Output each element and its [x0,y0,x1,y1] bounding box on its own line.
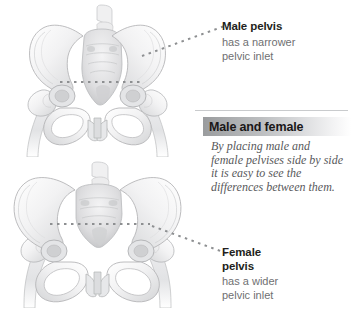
female-callout-title-line-2: pelvis [222,260,354,274]
female-callout-body-line-2: pelvic inlet [222,288,354,302]
section-heading: Male and female [209,119,303,135]
pubic-symphysis [94,272,101,294]
sacrum [82,5,122,105]
male-callout-body: has a narrower pelvic inlet [222,35,354,63]
sacrum [76,162,122,248]
male-callout-title: Male pelvis [222,20,354,34]
annotation-text-column: Male pelvis has a narrower pelvic inlet … [195,0,354,310]
male-pelvis-drawing [0,2,195,157]
female-pelvis-drawing [0,160,195,308]
caption-line-1: By placing male and [211,140,353,154]
male-pelvis-callout: Male pelvis has a narrower pelvic inlet [222,20,354,63]
section-caption: By placing male and female pelvises side… [211,140,353,194]
male-pelvis-illustration [0,2,195,157]
female-callout-title-line-1: Female [222,246,354,260]
pelvis-comparison-figure: Male pelvis has a narrower pelvic inlet … [0,0,354,310]
female-callout-body: has a wider pelvic inlet [222,274,354,302]
caption-line-4: differences between them. [211,181,353,195]
male-callout-body-line-1: has a narrower [222,35,354,49]
female-callout-title: Female pelvis [222,246,354,273]
caption-line-3: it is easy to see the [211,167,353,181]
pubic-symphysis [94,118,101,138]
caption-line-2: female pelvises side by side [211,154,353,168]
female-pelvis-callout: Female pelvis has a wider pelvic inlet [222,246,354,302]
female-pelvis-illustration [0,160,195,308]
section-divider-rule [195,110,348,111]
female-callout-body-line-1: has a wider [222,274,354,288]
male-callout-body-line-2: pelvic inlet [222,49,354,63]
